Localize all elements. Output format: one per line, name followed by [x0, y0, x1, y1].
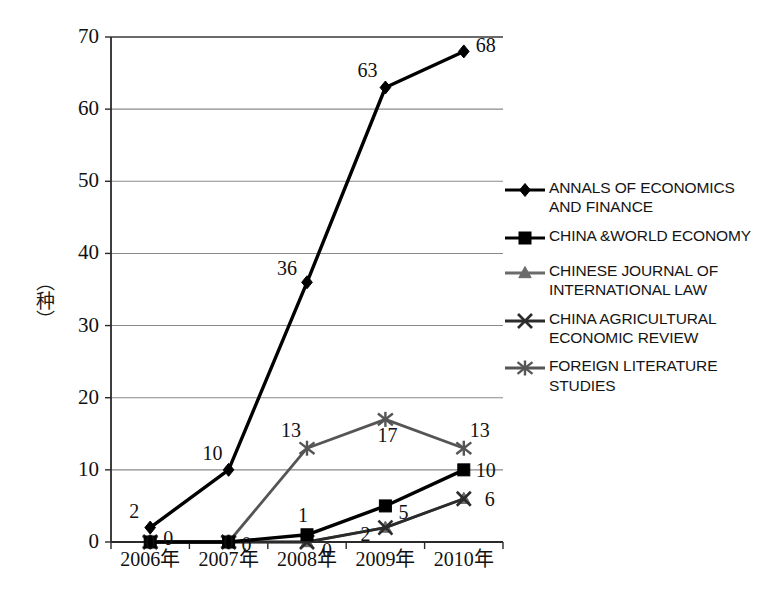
- chart-legend: ANNALS OF ECONOMICS AND FINANCECHINA &WO…: [503, 178, 775, 404]
- legend-label: FOREIGN LITERATURE STUDIES: [549, 356, 717, 395]
- legend-label: CHINA &WORLD ECONOMY: [549, 226, 751, 245]
- legend-item[interactable]: ANNALS OF ECONOMICS AND FINANCE: [503, 178, 775, 217]
- legend-item[interactable]: CHINA &WORLD ECONOMY: [503, 226, 775, 252]
- asterisk-marker-icon: [503, 357, 547, 379]
- x-tick-label: 2010年: [409, 549, 519, 569]
- legend-label: CHINESE JOURNAL OF INTERNATIONAL LAW: [549, 261, 718, 300]
- square-marker-icon: [503, 227, 547, 249]
- triangle-marker-icon: [503, 262, 547, 284]
- legend-label: CHINA AGRICULTURAL ECONOMIC REVIEW: [549, 309, 717, 348]
- legend-item[interactable]: FOREIGN LITERATURE STUDIES: [503, 356, 775, 395]
- series-0: [145, 45, 469, 534]
- diamond-marker-icon: [503, 179, 547, 201]
- legend-label: ANNALS OF ECONOMICS AND FINANCE: [549, 178, 735, 217]
- series-layer: [143, 45, 472, 550]
- legend-item[interactable]: CHINESE JOURNAL OF INTERNATIONAL LAW: [503, 261, 775, 300]
- series-1: [144, 464, 470, 548]
- x-marker-icon: [503, 310, 547, 332]
- legend-item[interactable]: CHINA AGRICULTURAL ECONOMIC REVIEW: [503, 309, 775, 348]
- line-chart: （种） 010203040506070 21036636800151000026…: [0, 0, 779, 614]
